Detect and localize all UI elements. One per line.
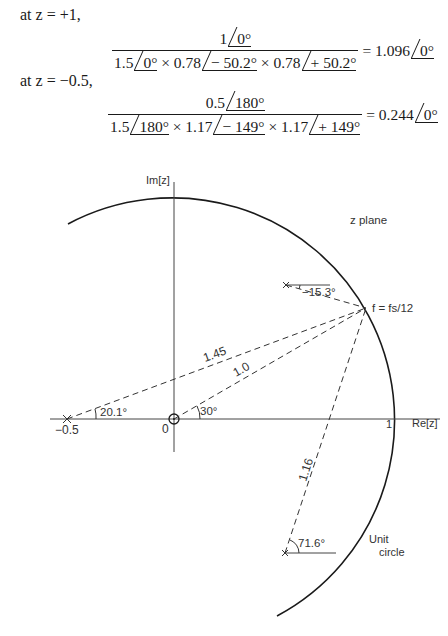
minus-half-label: −0.5 xyxy=(55,423,79,437)
angle-label-71-6: 71.6° xyxy=(298,537,325,549)
real-axis-label: Re[z] xyxy=(412,417,438,429)
vector-from-minus-half xyxy=(67,308,366,419)
vector-label-1-0: 1.0 xyxy=(231,359,253,380)
z-plane-diagram: Im[z] z plane Re[z] 1 0 −0.5 f = fs/12 U… xyxy=(0,0,448,636)
vector-from-origin xyxy=(174,308,366,419)
plane-label: z plane xyxy=(350,214,387,226)
angle-label-30: 30° xyxy=(200,405,217,417)
vector-label-1-45: 1.45 xyxy=(201,344,228,365)
point-label: f = fs/12 xyxy=(372,302,413,314)
unit-circle-label-1: Unit xyxy=(369,533,389,545)
angle-arc-upper-pole xyxy=(299,285,300,289)
origin-label: 0 xyxy=(162,422,169,436)
vector-from-lower-pole xyxy=(285,308,366,553)
one-label: 1 xyxy=(386,418,392,430)
vector-label-1-16: 1.16 xyxy=(296,456,317,483)
unit-circle-label-2: circle xyxy=(379,546,405,558)
angle-arc-minus-half xyxy=(95,409,96,419)
imag-axis-label: Im[z] xyxy=(146,174,170,186)
angle-label-20-1: 20.1° xyxy=(100,406,127,418)
angle-label-neg-15-3: −15.3° xyxy=(302,286,336,298)
